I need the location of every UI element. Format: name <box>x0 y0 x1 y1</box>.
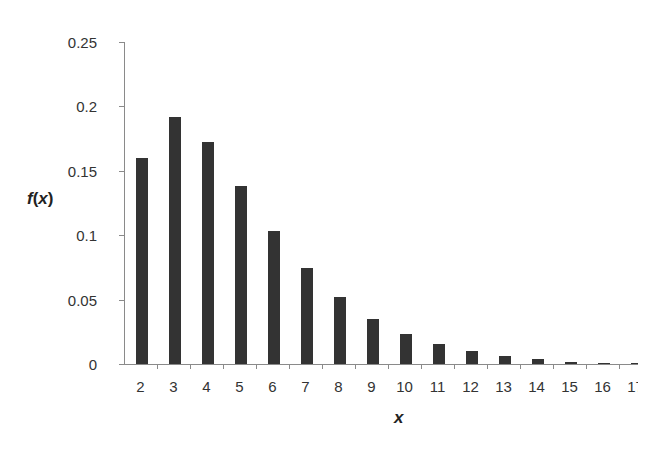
x-tick-mark <box>388 364 389 369</box>
bar-chart: 00.050.10.150.20.25 23456789101112131415… <box>0 0 638 457</box>
bar-x-9 <box>367 319 379 364</box>
x-tick-label: 5 <box>223 378 256 395</box>
y-tick-label: 0 <box>89 356 97 373</box>
x-tick-mark <box>454 364 455 369</box>
x-tick-label: 16 <box>586 378 619 395</box>
x-tick-label: 6 <box>256 378 289 395</box>
y-tick-mark <box>119 235 124 236</box>
y-tick-mark <box>119 171 124 172</box>
y-tick-label: 0.2 <box>76 98 97 115</box>
bar-x-10 <box>400 334 412 364</box>
bar-x-3 <box>169 117 181 364</box>
bar-x-14 <box>532 359 544 364</box>
bar-x-15 <box>565 362 577 364</box>
y-axis-title-var: x <box>38 189 47 208</box>
x-tick-mark <box>619 364 620 369</box>
x-tick-mark <box>421 364 422 369</box>
x-tick-label: 17 <box>619 378 638 395</box>
x-tick-mark <box>520 364 521 369</box>
y-axis-title-close: ) <box>48 189 54 208</box>
x-tick-mark <box>322 364 323 369</box>
bar-x-6 <box>268 231 280 364</box>
x-tick-mark <box>586 364 587 369</box>
x-tick-label: 15 <box>553 378 586 395</box>
x-tick-label: 14 <box>520 378 553 395</box>
x-tick-mark <box>355 364 356 369</box>
y-axis-line <box>124 42 125 365</box>
x-tick-label: 4 <box>190 378 223 395</box>
x-tick-mark <box>553 364 554 369</box>
bar-x-5 <box>235 186 247 364</box>
y-tick-label: 0.05 <box>68 291 97 308</box>
x-tick-mark <box>157 364 158 369</box>
x-tick-label: 8 <box>322 378 355 395</box>
y-tick-mark <box>119 364 124 365</box>
x-tick-label: 10 <box>388 378 421 395</box>
bar-x-17 <box>631 363 639 364</box>
x-axis-title: x <box>394 408 403 428</box>
x-tick-mark <box>289 364 290 369</box>
x-axis-line <box>119 364 638 365</box>
x-tick-mark <box>190 364 191 369</box>
y-axis-title: f(x) <box>27 189 53 209</box>
x-tick-mark <box>223 364 224 369</box>
x-tick-label: 2 <box>124 378 157 395</box>
bar-x-16 <box>598 363 610 364</box>
bar-x-7 <box>301 268 313 364</box>
x-tick-label: 13 <box>487 378 520 395</box>
bar-x-8 <box>334 297 346 364</box>
bar-x-13 <box>499 356 511 364</box>
bar-x-12 <box>466 351 478 364</box>
bar-x-4 <box>202 142 214 364</box>
x-tick-label: 7 <box>289 378 322 395</box>
bar-x-11 <box>433 344 445 364</box>
x-tick-label: 11 <box>421 378 454 395</box>
x-tick-label: 3 <box>157 378 190 395</box>
x-tick-mark <box>256 364 257 369</box>
x-tick-label: 9 <box>355 378 388 395</box>
y-tick-mark <box>119 42 124 43</box>
bar-x-2 <box>136 158 148 364</box>
y-tick-mark <box>119 106 124 107</box>
y-tick-label: 0.1 <box>76 227 97 244</box>
y-tick-label: 0.15 <box>68 162 97 179</box>
x-tick-label: 12 <box>454 378 487 395</box>
y-tick-label: 0.25 <box>68 34 97 51</box>
y-tick-mark <box>119 300 124 301</box>
x-tick-mark <box>487 364 488 369</box>
